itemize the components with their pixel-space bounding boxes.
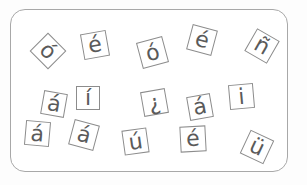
letter-tile-char: é	[86, 33, 103, 57]
letter-tile-char: ü	[246, 134, 268, 160]
letter-tile[interactable]: i	[227, 82, 254, 109]
letter-tile-char: ¿	[146, 90, 161, 114]
letter-tile-char: ñ	[250, 33, 273, 59]
letter-tile-char: á	[75, 123, 94, 148]
letter-tile[interactable]: é	[179, 125, 206, 152]
letter-tile-char: i	[237, 85, 245, 107]
letter-tile-char: í	[85, 87, 91, 109]
letter-tile[interactable]: á	[186, 93, 214, 121]
letter-tile-char: á	[45, 92, 62, 116]
letter-tile-char: á	[191, 95, 208, 119]
letter-tile[interactable]: ú	[121, 127, 149, 155]
letter-tile-char: ú	[127, 129, 144, 153]
letter-tile-char: á	[29, 121, 44, 144]
letter-tile[interactable]: ¿	[140, 88, 169, 117]
letter-tile[interactable]: í	[76, 86, 100, 110]
letter-tile-char: é	[193, 28, 212, 53]
letter-tile[interactable]: é	[80, 30, 110, 60]
letter-tile[interactable]: á	[40, 90, 68, 118]
letter-tile-char: ó	[35, 38, 60, 63]
letter-tile[interactable]: á	[23, 119, 50, 146]
letter-tile-char: é	[186, 128, 201, 151]
letter-tile-char: ó	[143, 40, 162, 65]
